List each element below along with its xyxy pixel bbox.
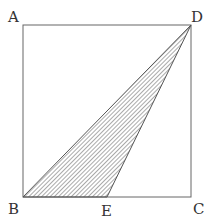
shaded-triangle-bed xyxy=(23,25,191,197)
label-a: A xyxy=(7,8,19,26)
label-b: B xyxy=(8,200,19,218)
label-e: E xyxy=(101,202,112,220)
label-d: D xyxy=(191,8,203,26)
geometry-diagram: A D B E C xyxy=(0,0,210,223)
label-c: C xyxy=(193,200,204,218)
